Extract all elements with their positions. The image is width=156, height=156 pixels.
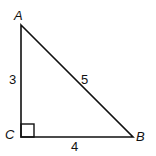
triangle-diagram: A B C 3 4 5 xyxy=(0,0,156,156)
triangle-outline xyxy=(21,25,133,137)
vertex-label-b: B xyxy=(136,129,145,144)
right-angle-marker xyxy=(21,124,34,137)
triangle-figure: A B C 3 4 5 xyxy=(0,0,156,156)
side-label-ab: 5 xyxy=(81,72,88,87)
vertex-label-a: A xyxy=(13,8,23,23)
vertex-label-c: C xyxy=(5,127,15,142)
side-label-ac: 3 xyxy=(9,72,16,87)
side-label-cb: 4 xyxy=(71,139,78,154)
